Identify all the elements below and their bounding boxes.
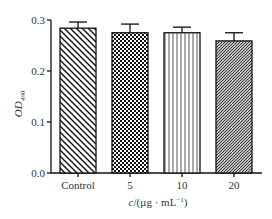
y-title-sub: 490: [19, 90, 27, 101]
y-tick-label: 0.1: [31, 116, 45, 128]
y-axis-title: OD490: [12, 90, 27, 117]
x-tick-label: Control: [61, 179, 95, 191]
bar-10: 10: [164, 27, 200, 191]
bars: Control51020: [60, 22, 252, 191]
x-title-close: ): [184, 196, 188, 209]
bar-control: Control: [60, 22, 96, 191]
x-tick-label: 20: [229, 179, 241, 191]
bar-20: 20: [216, 33, 252, 191]
bar-chart: 0.00.10.20.3 Control51020 OD490 c/(µg · …: [0, 0, 272, 219]
bar-rect: [112, 33, 148, 173]
bar-5: 5: [112, 24, 148, 191]
y-tick-label: 0.2: [31, 65, 45, 77]
y-axis: 0.00.10.20.3: [31, 14, 51, 179]
y-tick-label: 0.0: [31, 167, 45, 179]
y-tick-label: 0.3: [31, 14, 45, 26]
bar-rect: [60, 28, 96, 173]
x-axis-title: c/(µg · mL−1): [128, 196, 187, 209]
svg-text:OD490: OD490: [12, 90, 27, 117]
bar-rect: [164, 33, 200, 173]
y-title-main: OD: [12, 101, 24, 117]
x-tick-label: 5: [127, 179, 133, 191]
x-tick-label: 10: [177, 179, 189, 191]
x-title-unit: /(µg · mL: [133, 196, 176, 209]
bar-rect: [216, 41, 252, 173]
